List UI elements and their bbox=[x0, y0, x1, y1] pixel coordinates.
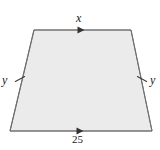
trapezoid-shape bbox=[10, 30, 152, 131]
right-side-label: y bbox=[150, 74, 155, 86]
left-side-label: y bbox=[2, 74, 7, 86]
top-side-label: x bbox=[76, 12, 81, 24]
geometry-figure: x y y 25 bbox=[0, 0, 160, 150]
bottom-side-label: 25 bbox=[72, 134, 83, 145]
